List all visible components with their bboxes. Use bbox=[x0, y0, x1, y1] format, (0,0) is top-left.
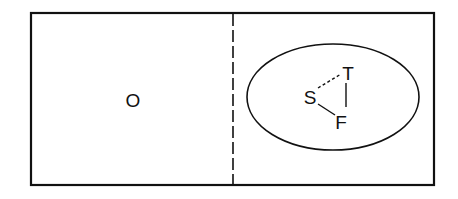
ellipse bbox=[247, 44, 419, 150]
node-t: T bbox=[342, 63, 354, 84]
node-s: S bbox=[304, 87, 317, 108]
edge-s-t-dashed bbox=[318, 74, 341, 88]
edge-s-f bbox=[318, 104, 335, 115]
diagram-canvas: O T S F bbox=[0, 0, 458, 199]
node-f: F bbox=[335, 112, 347, 133]
label-o: O bbox=[126, 90, 141, 111]
